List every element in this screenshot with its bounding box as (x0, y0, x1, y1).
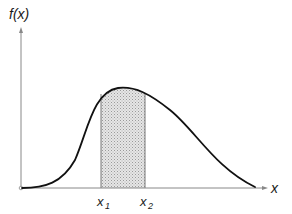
density-diagram: f(x) x x 1 x 2 (0, 0, 292, 214)
svg-text:x: x (96, 194, 104, 209)
y-axis-label: f(x) (9, 6, 29, 22)
svg-text:2: 2 (147, 201, 153, 211)
x-axis-label: x (270, 180, 279, 196)
y-axis (19, 27, 23, 188)
x2-label: x 2 (139, 194, 153, 211)
x-axis-arrow-icon (262, 186, 268, 190)
x1-label: x 1 (96, 194, 110, 211)
y-axis-arrow-icon (19, 27, 23, 33)
svg-text:x: x (139, 194, 147, 209)
svg-text:1: 1 (105, 201, 110, 211)
shaded-area (101, 60, 145, 188)
